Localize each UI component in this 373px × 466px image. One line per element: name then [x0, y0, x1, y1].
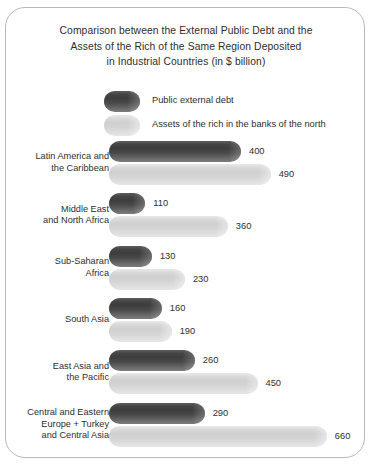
cylinder-cap — [258, 164, 271, 185]
bar-value-label: 130 — [160, 251, 176, 261]
category-label-line: Latin America and — [0, 151, 109, 163]
category-label: Latin America andthe Caribbean — [0, 151, 109, 174]
category-label-line: and Central Asia — [0, 430, 109, 442]
bar-group: Central and EasternEurope + Turkeyand Ce… — [6, 401, 366, 451]
cylinder-cap — [314, 426, 327, 447]
bar-public-external-debt[interactable] — [109, 193, 145, 214]
bar-value-label: 490 — [279, 169, 295, 179]
bar-value-label: 450 — [266, 378, 282, 388]
category-label-line: East Asia and — [0, 361, 109, 373]
category-label-line: the Pacific — [0, 372, 109, 384]
bar-assets-of-the-rich[interactable] — [109, 269, 185, 290]
bar-assets-of-the-rich[interactable] — [109, 426, 327, 447]
category-label-line: the Caribbean — [0, 163, 109, 175]
cylinder-cap — [192, 403, 205, 424]
category-label: East Asia andthe Pacific — [0, 361, 109, 384]
bar-assets-of-the-rich[interactable] — [109, 164, 271, 185]
bar-value-label: 660 — [335, 431, 351, 441]
category-label: Sub-SaharanAfrica — [0, 256, 109, 279]
cylinder-cap — [132, 193, 145, 214]
cylinder-cap — [215, 216, 228, 237]
cylinder-cap — [159, 321, 172, 342]
bar-public-external-debt[interactable] — [109, 350, 195, 371]
cylinder-cap — [228, 141, 241, 162]
category-label-line: Central and Eastern — [0, 407, 109, 419]
bar-public-external-debt[interactable] — [109, 141, 241, 162]
category-label-line: Middle East — [0, 204, 109, 216]
bar-assets-of-the-rich[interactable] — [109, 216, 228, 237]
bar-value-label: 290 — [213, 408, 229, 418]
bar-value-label: 360 — [236, 221, 252, 231]
cylinder-cap — [172, 269, 185, 290]
bar-value-label: 110 — [153, 198, 168, 208]
bar-value-label: 260 — [203, 355, 219, 365]
category-label: Central and EasternEurope + Turkeyand Ce… — [0, 407, 109, 442]
bar-value-label: 190 — [180, 326, 196, 336]
cylinder-cap — [149, 298, 162, 319]
bar-group: South Asia160190 — [6, 296, 366, 346]
category-label: South Asia — [0, 314, 109, 326]
category-label: Middle Eastand North Africa — [0, 204, 109, 227]
cylinder-cap — [182, 350, 195, 371]
bar-group: Latin America andthe Caribbean400490 — [6, 139, 366, 189]
chart-plot-area: Latin America andthe Caribbean400490Midd… — [6, 8, 366, 459]
bar-value-label: 400 — [249, 146, 265, 156]
category-label-line: Africa — [0, 268, 109, 280]
bar-public-external-debt[interactable] — [109, 246, 152, 267]
category-label-line: and North Africa — [0, 215, 109, 227]
bar-public-external-debt[interactable] — [109, 298, 162, 319]
bar-group: Sub-SaharanAfrica130230 — [6, 244, 366, 294]
bar-assets-of-the-rich[interactable] — [109, 373, 258, 394]
bar-group: Middle Eastand North Africa110360 — [6, 191, 366, 241]
bar-value-label: 230 — [193, 274, 209, 284]
bar-value-label: 160 — [170, 303, 186, 313]
category-label-line: Europe + Turkey — [0, 419, 109, 431]
bar-public-external-debt[interactable] — [109, 403, 205, 424]
category-label-line: Sub-Saharan — [0, 256, 109, 268]
bar-group: East Asia andthe Pacific260450 — [6, 348, 366, 398]
category-label-line: South Asia — [0, 314, 109, 326]
cylinder-cap — [245, 373, 258, 394]
bar-assets-of-the-rich[interactable] — [109, 321, 172, 342]
cylinder-cap — [139, 246, 152, 267]
chart-card: Comparison between the External Public D… — [5, 7, 365, 458]
